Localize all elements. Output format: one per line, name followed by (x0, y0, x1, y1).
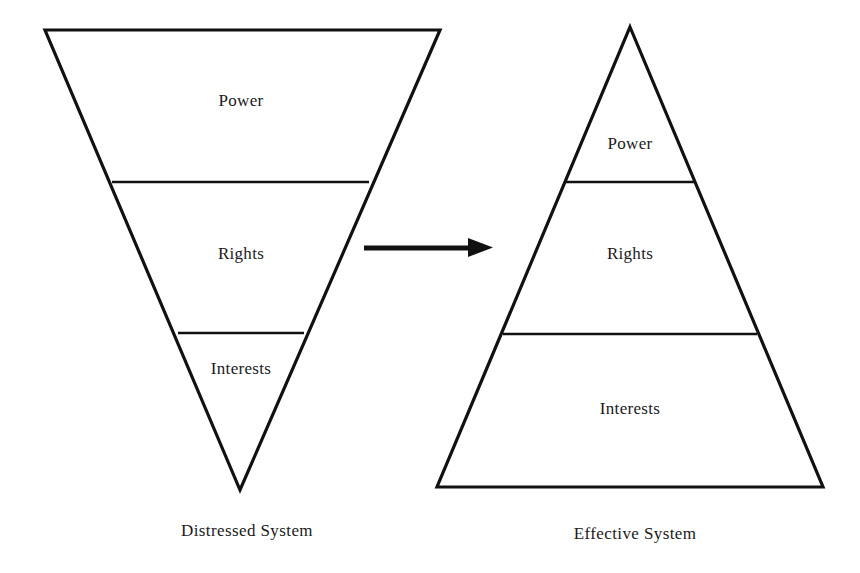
distressed-system-caption: Distressed System (181, 522, 313, 539)
effective-tier-label-power: Power (608, 135, 653, 152)
effective-system-caption: Effective System (574, 525, 697, 542)
distressed-tier-label-interests: Interests (211, 360, 271, 377)
transformation-arrow (364, 238, 493, 257)
diagram-svg (0, 0, 860, 573)
effective-tier-label-interests: Interests (600, 400, 660, 417)
distressed-tier-label-power: Power (219, 92, 264, 109)
figure-canvas: Power Rights Interests Power Rights Inte… (0, 0, 860, 573)
arrow-head (468, 238, 493, 257)
effective-tier-label-rights: Rights (607, 245, 653, 262)
distressed-tier-label-rights: Rights (218, 245, 264, 262)
